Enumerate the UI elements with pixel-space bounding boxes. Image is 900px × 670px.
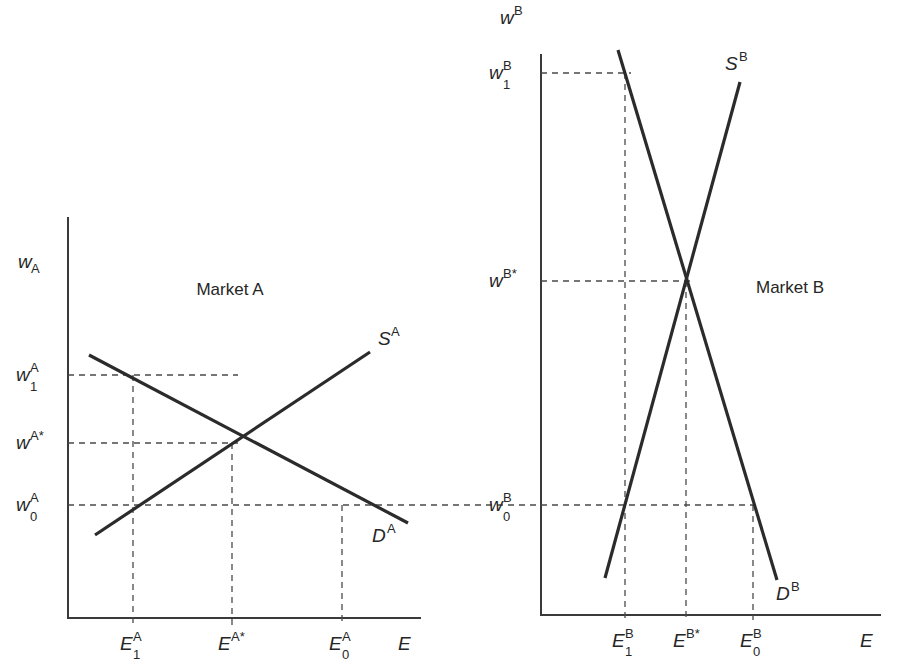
svg-text:0: 0 [753, 644, 760, 659]
market-b-wage-tick-w0: w B 0 [489, 490, 512, 524]
svg-text:B: B [503, 58, 512, 73]
svg-text:w: w [489, 494, 504, 515]
market-a-wage-tick-wstar: w A* [16, 428, 44, 453]
market-b-emp-tick-estar: E B* [673, 626, 700, 651]
market-b-emp-tick-e1: E B 1 [612, 626, 634, 659]
market-a-panel: Market A w A E w A 1 w A* w A 0 [16, 218, 540, 662]
svg-text:S: S [725, 53, 738, 74]
market-b-x-axis-label: E [860, 630, 873, 651]
svg-text:1: 1 [133, 647, 140, 662]
figure-canvas: Market A w A E w A 1 w A* w A 0 [0, 0, 900, 670]
svg-text:A: A [30, 360, 39, 375]
svg-text:B: B [753, 626, 762, 641]
svg-text:E: E [120, 633, 133, 654]
market-a-x-axis-label: E [398, 633, 411, 654]
svg-text:w: w [500, 7, 515, 28]
svg-text:A: A [342, 629, 351, 644]
market-a-wage-tick-w1: w A 1 [16, 360, 39, 394]
market-a-wage-tick-w0: w A 0 [16, 490, 39, 524]
svg-text:A*: A* [231, 629, 245, 644]
svg-text:B: B [625, 626, 634, 641]
supply-curve-b-label: S B [725, 49, 748, 74]
supply-curve-a-label: S A [378, 324, 400, 349]
svg-text:w: w [489, 270, 504, 291]
svg-text:1: 1 [503, 77, 510, 92]
two-market-supply-demand-diagram: Market A w A E w A 1 w A* w A 0 [0, 0, 900, 670]
market-a-emp-tick-e0: E A 0 [329, 629, 351, 662]
market-b-panel: Market B w B E w B 1 w B* w B 0 [489, 3, 880, 659]
svg-text:S: S [378, 328, 391, 349]
market-a-title: Market A [196, 280, 264, 299]
svg-text:0: 0 [342, 647, 349, 662]
svg-text:E: E [740, 630, 753, 651]
svg-text:B: B [514, 3, 523, 18]
market-b-emp-tick-e0: E B 0 [740, 626, 762, 659]
svg-text:w: w [489, 62, 504, 83]
svg-text:E: E [612, 630, 625, 651]
market-b-y-axis-label: w B [500, 3, 523, 28]
svg-text:D: D [372, 525, 386, 546]
svg-text:w: w [16, 494, 31, 515]
market-a-axes [68, 218, 420, 618]
market-b-title: Market B [756, 278, 824, 297]
market-a-emp-tick-e1: E A 1 [120, 629, 142, 662]
svg-text:A: A [391, 324, 400, 339]
demand-curve-a-label: D A [372, 521, 396, 546]
market-a-emp-tick-estar: E A* [218, 629, 245, 654]
svg-text:A: A [30, 490, 39, 505]
svg-text:1: 1 [625, 644, 632, 659]
market-b-wage-tick-w1: w B 1 [489, 58, 512, 92]
svg-text:B: B [791, 579, 800, 594]
svg-text:w: w [16, 432, 31, 453]
svg-text:E: E [329, 633, 342, 654]
demand-curve-b-label: D B [776, 579, 800, 604]
svg-text:1: 1 [30, 379, 37, 394]
svg-text:B*: B* [503, 266, 517, 281]
svg-text:A: A [31, 261, 40, 276]
svg-text:w: w [16, 364, 31, 385]
svg-text:A: A [133, 629, 142, 644]
svg-text:A: A [387, 521, 396, 536]
svg-text:0: 0 [30, 509, 37, 524]
svg-text:B: B [503, 490, 512, 505]
market-a-y-axis-label: w A [18, 251, 40, 276]
market-b-wage-tick-wstar: w B* [489, 266, 517, 291]
svg-text:B*: B* [686, 626, 700, 641]
demand-curve-b [618, 50, 777, 580]
svg-text:0: 0 [503, 509, 510, 524]
svg-text:E: E [218, 633, 231, 654]
svg-text:A*: A* [30, 428, 44, 443]
svg-text:E: E [673, 630, 686, 651]
svg-text:B: B [739, 49, 748, 64]
market-b-axes [541, 55, 880, 615]
demand-curve-a [89, 355, 408, 523]
svg-text:D: D [776, 583, 790, 604]
